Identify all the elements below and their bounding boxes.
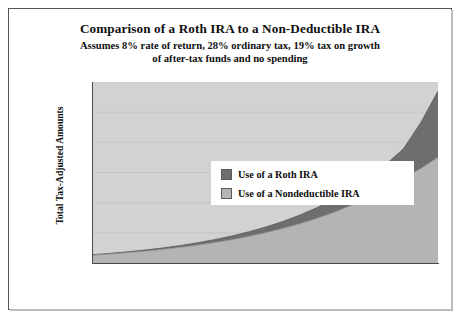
chart-subtitle-line-2: of after-tax funds and no spending bbox=[39, 53, 421, 66]
legend-label-nondeductible-ira: Use of a Nondeductible IRA bbox=[238, 188, 360, 199]
y-axis-label: Total Tax-Adjusted Amounts bbox=[54, 61, 65, 271]
x-axis-line bbox=[92, 263, 439, 264]
chart-frame: Comparison of a Roth IRA to a Non-Deduct… bbox=[8, 8, 452, 310]
plot-area: $0$200,000$400,000$600,000$800,000$1,000… bbox=[93, 82, 438, 263]
y-axis-line bbox=[92, 82, 93, 263]
legend-swatch-roth-ira bbox=[221, 169, 232, 180]
legend-swatch-nondeductible-ira bbox=[221, 188, 232, 199]
legend-item-nondeductible-ira: Use of a Nondeductible IRA bbox=[221, 188, 360, 199]
legend-item-roth-ira: Use of a Roth IRA bbox=[221, 169, 318, 180]
chart-legend: Use of a Roth IRA Use of a Nondeductible… bbox=[211, 161, 414, 205]
chart-subtitle-line-1: Assumes 8% rate of return, 28% ordinary … bbox=[39, 40, 421, 53]
legend-label-roth-ira: Use of a Roth IRA bbox=[238, 169, 318, 180]
chart-subtitle: Assumes 8% rate of return, 28% ordinary … bbox=[39, 40, 421, 65]
chart-title: Comparison of a Roth IRA to a Non-Deduct… bbox=[9, 21, 451, 37]
